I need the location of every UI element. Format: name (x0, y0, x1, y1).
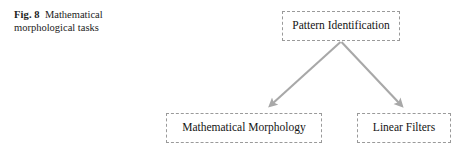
figure-container: Fig. 8 Mathematical morphological tasks … (0, 0, 472, 151)
edge-pattern-to-filters (342, 42, 401, 104)
node-label: Pattern Identification (292, 20, 389, 32)
node-mathematical-morphology: Mathematical Morphology (166, 113, 322, 143)
figure-caption-label: Fig. 8 (14, 9, 40, 20)
node-label: Linear Filters (373, 122, 435, 134)
figure-caption: Fig. 8 Mathematical morphological tasks (14, 8, 164, 34)
node-label: Mathematical Morphology (182, 122, 306, 134)
node-pattern-identification: Pattern Identification (282, 11, 400, 41)
edge-pattern-to-morphology (272, 42, 341, 104)
node-linear-filters: Linear Filters (357, 113, 451, 143)
